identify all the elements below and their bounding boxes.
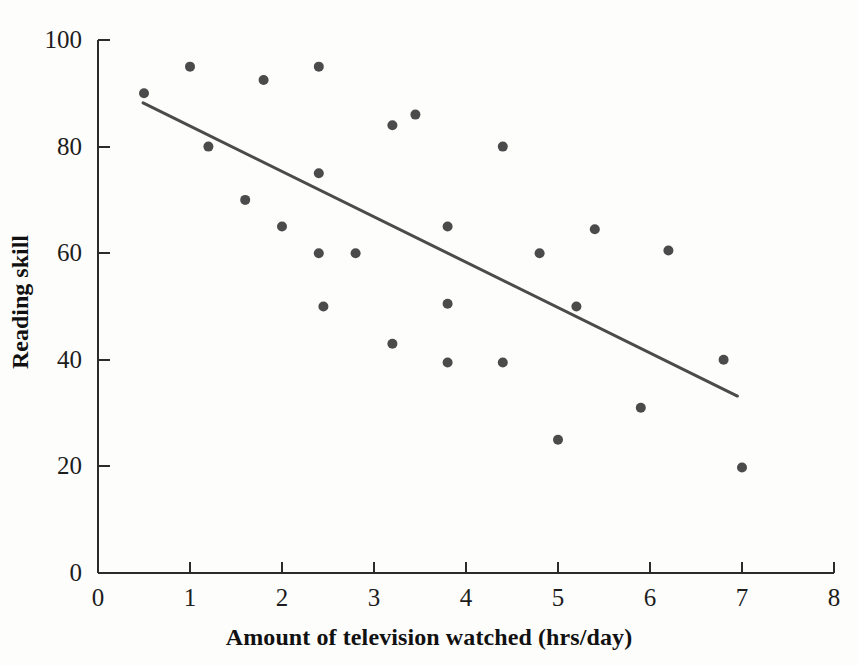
data-point bbox=[443, 299, 453, 309]
scatter-plot-figure: 012345678020406080100 Amount of televisi… bbox=[0, 0, 858, 665]
data-point bbox=[498, 357, 508, 367]
y-tick-label: 100 bbox=[2, 27, 82, 52]
data-point bbox=[387, 339, 397, 349]
x-tick-label: 6 bbox=[620, 585, 680, 610]
data-point bbox=[259, 75, 269, 85]
data-point bbox=[318, 302, 328, 312]
x-tick-label: 7 bbox=[712, 585, 772, 610]
x-tick-label: 3 bbox=[344, 585, 404, 610]
x-tick-label: 2 bbox=[252, 585, 312, 610]
data-point bbox=[535, 248, 545, 258]
data-points bbox=[139, 62, 747, 473]
data-point bbox=[203, 142, 213, 152]
data-point bbox=[443, 222, 453, 232]
plot-canvas bbox=[0, 0, 858, 665]
x-tick-label: 0 bbox=[68, 585, 128, 610]
data-point bbox=[314, 62, 324, 72]
data-point bbox=[443, 357, 453, 367]
data-point bbox=[719, 355, 729, 365]
data-point bbox=[737, 462, 747, 472]
data-point bbox=[498, 142, 508, 152]
x-tick-label: 5 bbox=[528, 585, 588, 610]
data-point bbox=[240, 195, 250, 205]
data-point bbox=[663, 246, 673, 256]
y-tick-label: 20 bbox=[2, 453, 82, 478]
data-point bbox=[410, 110, 420, 120]
trendline bbox=[143, 103, 737, 396]
data-point bbox=[277, 222, 287, 232]
x-tick-label: 8 bbox=[804, 585, 858, 610]
data-point bbox=[636, 403, 646, 413]
data-point bbox=[314, 248, 324, 258]
x-axis-title: Amount of television watched (hrs/day) bbox=[0, 624, 858, 651]
x-tick-label: 1 bbox=[160, 585, 220, 610]
data-point bbox=[351, 248, 361, 258]
y-tick-label: 0 bbox=[2, 560, 82, 585]
data-point bbox=[314, 168, 324, 178]
data-point bbox=[387, 120, 397, 130]
axes bbox=[98, 40, 834, 573]
y-axis-title: Reading skill bbox=[7, 192, 34, 412]
data-point bbox=[571, 302, 581, 312]
regression-line bbox=[143, 103, 737, 396]
data-point bbox=[139, 88, 149, 98]
axis-ticks bbox=[98, 40, 834, 573]
x-tick-label: 4 bbox=[436, 585, 496, 610]
data-point bbox=[590, 224, 600, 234]
y-tick-label: 80 bbox=[2, 134, 82, 159]
data-point bbox=[185, 62, 195, 72]
data-point bbox=[553, 435, 563, 445]
